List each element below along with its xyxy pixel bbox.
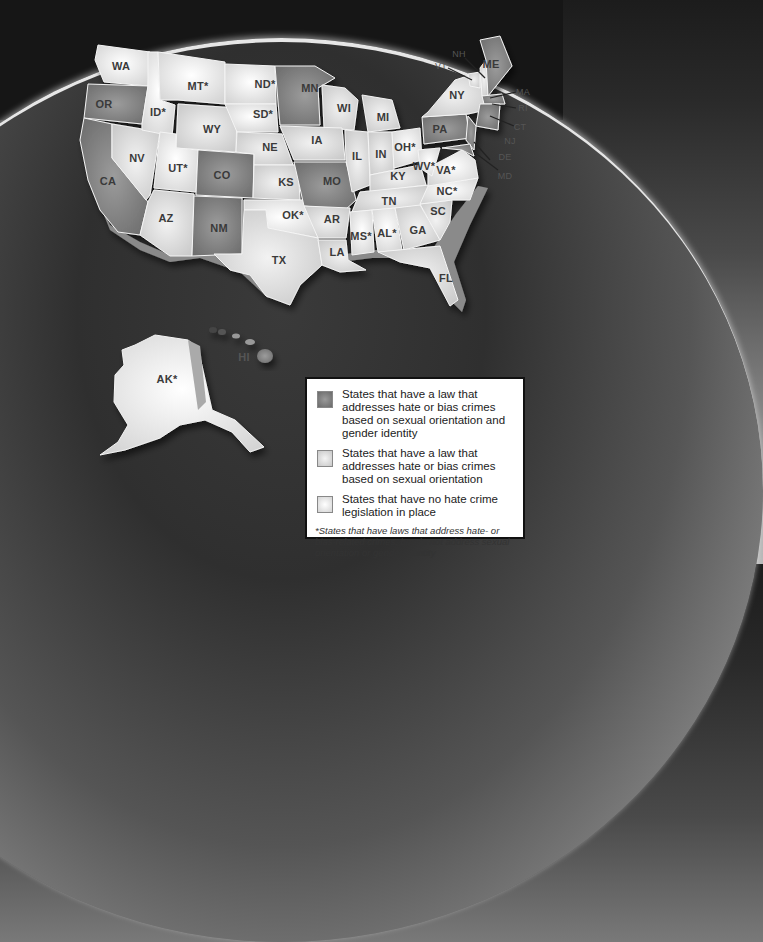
state-label-wa[interactable]: WA [112, 60, 130, 72]
state-label-va[interactable]: VA* [436, 164, 455, 176]
state-label-ky[interactable]: KY [390, 170, 406, 182]
state-ct [476, 104, 500, 130]
state-label-mi[interactable]: MI [377, 111, 390, 123]
state-label-fl[interactable]: FL [439, 272, 453, 284]
state-label-ia[interactable]: IA [311, 134, 322, 146]
state-label-tn[interactable]: TN [381, 195, 396, 207]
state-label-ok[interactable]: OK* [282, 209, 303, 221]
state-label-la[interactable]: LA [329, 246, 344, 258]
callout-label-ma[interactable]: MA [516, 87, 530, 97]
state-label-sd[interactable]: SD* [253, 108, 273, 120]
callout-label-nj[interactable]: NJ [504, 136, 515, 146]
state-label-al[interactable]: AL* [377, 227, 397, 239]
state-label-nd[interactable]: ND* [255, 78, 276, 90]
state-label-az[interactable]: AZ [158, 212, 173, 224]
state-label-ar[interactable]: AR [324, 213, 340, 225]
legend-item-sexual-orientation: States that have a law that addresses ha… [315, 447, 515, 486]
state-label-mt[interactable]: MT* [188, 80, 209, 92]
state-label-or[interactable]: OR [96, 98, 113, 110]
state-label-ms[interactable]: MS* [350, 230, 371, 242]
state-label-wi[interactable]: WI [337, 102, 351, 114]
state-label-mo[interactable]: MO [323, 175, 341, 187]
state-label-il[interactable]: IL [352, 150, 362, 162]
callout-label-ct[interactable]: CT [514, 122, 526, 132]
legend-label: States that have no hate crime legislati… [342, 493, 515, 519]
state-label-ny[interactable]: NY [449, 89, 465, 101]
state-label-wv[interactable]: WV* [413, 160, 436, 172]
legend-label: States that have a law that addresses ha… [342, 447, 515, 486]
state-label-nm[interactable]: NM [210, 222, 228, 234]
legend-item-both: States that have a law that addresses ha… [315, 388, 515, 440]
state-label-in[interactable]: IN [375, 148, 386, 160]
state-label-co[interactable]: CO [214, 169, 231, 181]
state-vt [468, 72, 480, 88]
legend: States that have a law that addresses ha… [305, 377, 525, 539]
state-label-ks[interactable]: KS [278, 176, 294, 188]
legend-swatch-light [317, 450, 333, 467]
state-label-ut[interactable]: UT* [168, 162, 188, 174]
state-label-ca[interactable]: CA [100, 175, 116, 187]
state-label-nc[interactable]: NC* [437, 185, 458, 197]
callout-label-ri[interactable]: RI [518, 103, 527, 113]
legend-swatch-white [317, 496, 333, 513]
state-label-id[interactable]: ID* [150, 106, 166, 118]
state-label-me[interactable]: ME [483, 58, 500, 70]
callout-label-md[interactable]: MD [498, 171, 512, 181]
callout-label-vt[interactable]: VT [435, 61, 447, 71]
legend-footnote: *States that have laws that address hate… [315, 525, 515, 558]
state-label-wy[interactable]: WY [203, 123, 221, 135]
legend-label: States that have a law that addresses ha… [342, 388, 515, 440]
legend-swatch-dark [317, 391, 333, 408]
state-label-ak[interactable]: AK* [157, 373, 178, 385]
state-label-hi[interactable]: HI [238, 351, 249, 363]
state-label-tx[interactable]: TX [272, 254, 286, 266]
state-label-oh[interactable]: OH* [394, 141, 415, 153]
callout-label-nh[interactable]: NH [452, 49, 465, 59]
callout-label-de[interactable]: DE [499, 152, 512, 162]
state-label-mn[interactable]: MN [301, 82, 319, 94]
state-label-pa[interactable]: PA [433, 123, 448, 135]
state-or [84, 84, 148, 124]
state-mt [158, 52, 225, 104]
state-label-sc[interactable]: SC [430, 205, 446, 217]
legend-item-none: States that have no hate crime legislati… [315, 493, 515, 519]
state-label-ne[interactable]: NE [262, 141, 278, 153]
state-label-nv[interactable]: NV [129, 152, 145, 164]
state-label-ga[interactable]: GA [410, 224, 427, 236]
